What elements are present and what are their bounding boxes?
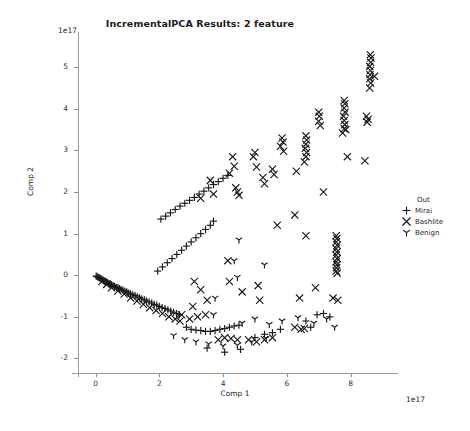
series-mirai: [93, 172, 334, 356]
x-tick-label: 0: [86, 379, 106, 388]
tri_down-marker-icon: [398, 227, 415, 238]
x-tick-mark: [96, 373, 97, 377]
x-tick-mark: [351, 373, 352, 377]
y-axis-offset-text: 1e17: [58, 26, 77, 35]
x-tick-mark: [287, 373, 288, 377]
y-tick-label: 3: [52, 146, 68, 154]
x-tick-mark: [223, 373, 224, 377]
plus-marker-icon: [398, 205, 415, 216]
x-tick-label: 4: [213, 379, 233, 388]
legend-label: Bashlite: [415, 218, 443, 226]
x-tick-label: 2: [149, 379, 169, 388]
legend-entry-bashlite[interactable]: Bashlite: [398, 216, 468, 227]
legend: Out MiraiBashliteBenign: [398, 196, 468, 238]
y-tick-label: 1: [52, 230, 68, 238]
y-tick-label: -1: [52, 313, 68, 321]
x-marker-icon: [398, 216, 415, 227]
x-axis-spine: [72, 373, 398, 374]
legend-entry-mirai[interactable]: Mirai: [398, 205, 468, 216]
y-tick-label: 5: [52, 63, 68, 71]
y-tick-label: 4: [52, 105, 68, 113]
figure-canvas: IncrementalPCA Results: 2 feature 1e17 1…: [0, 0, 470, 431]
x-tick-label: 8: [341, 379, 361, 388]
x-tick-mark: [159, 373, 160, 377]
legend-title: Out: [417, 196, 468, 204]
legend-entries: MiraiBashliteBenign: [398, 205, 468, 238]
scatter-points: [78, 36, 392, 373]
y-tick-label: 2: [52, 188, 68, 196]
y-axis-label: Comp 2: [26, 167, 35, 196]
series-bashlite: [98, 51, 378, 345]
plot-area: [78, 36, 392, 373]
legend-label: Mirai: [415, 207, 432, 215]
y-tick-label: -2: [52, 354, 68, 362]
legend-label: Benign: [415, 229, 439, 237]
x-axis-label: Comp 1: [0, 389, 470, 398]
legend-entry-benign[interactable]: Benign: [398, 227, 468, 238]
y-tick-label: 0: [52, 271, 68, 279]
x-tick-label: 6: [277, 379, 297, 388]
